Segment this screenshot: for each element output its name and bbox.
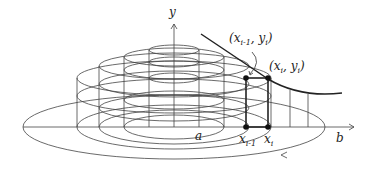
pp-c: , y: [251, 31, 265, 45]
point-i-base: [265, 124, 271, 130]
point-prev-top: [243, 75, 249, 81]
pi-d: i: [297, 66, 300, 75]
pp-d: i: [265, 38, 268, 47]
x-i-main: x: [264, 132, 271, 146]
pi-e: ): [300, 59, 305, 73]
a-label: a: [195, 130, 202, 142]
pi-a: (x: [269, 59, 280, 73]
b-label: b: [336, 132, 344, 144]
point-i-top: [265, 75, 271, 81]
pp-e: ): [268, 31, 273, 45]
pp-a: (x: [229, 31, 240, 45]
y-axis-label: y: [169, 6, 176, 18]
pi-c: , y: [283, 59, 297, 73]
x-i-sub: i: [271, 139, 274, 148]
x-prev-sub: i-1: [246, 139, 256, 148]
point-prev-base: [243, 124, 249, 130]
point-prev-label: (xi-1, yi): [229, 32, 272, 44]
point-i-label: (xi, yi): [269, 60, 305, 72]
shell-method-diagram: y a b xi-1 xi (xi-1, yi) (xi, yi): [0, 0, 373, 172]
x-prev-label: xi-1: [239, 133, 256, 145]
rotation-arrow-icon: [281, 152, 287, 158]
pp-b: i-1: [240, 38, 250, 47]
diagram-graphic: [0, 0, 373, 172]
x-prev-main: x: [239, 132, 246, 146]
x-i-label: xi: [264, 133, 273, 145]
pi-b: i: [280, 66, 283, 75]
